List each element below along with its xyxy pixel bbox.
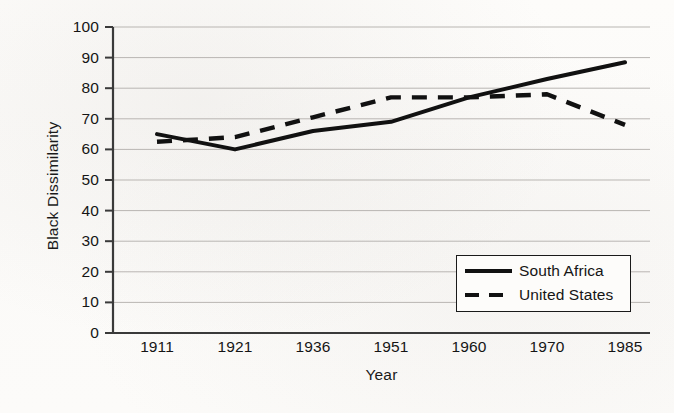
x-axis-tick-label: 1921	[200, 338, 270, 356]
y-axis-tick-label: 70	[55, 110, 99, 128]
legend-label-south-africa: South Africa	[519, 262, 604, 280]
chart-figure: Black Dissimilarity Year 100908070605040…	[0, 0, 674, 413]
y-axis-tick-label: 40	[55, 202, 99, 220]
y-axis-tick-label: 0	[55, 324, 99, 342]
x-axis-tick-label: 1960	[434, 338, 504, 356]
y-axis-tick-label: 60	[55, 140, 99, 158]
y-axis-tick-label: 80	[55, 79, 99, 97]
y-axis-tick-label: 100	[55, 18, 99, 36]
x-axis-title: Year	[113, 366, 650, 384]
chart-legend: South Africa United States	[456, 255, 631, 312]
y-axis-tick-label: 50	[55, 171, 99, 189]
y-axis-tick-label: 30	[55, 232, 99, 250]
y-axis-tick-label: 10	[55, 293, 99, 311]
y-axis-tick-label: 90	[55, 49, 99, 67]
y-axis-tick-marks	[105, 27, 113, 333]
y-axis-tick-label: 20	[55, 263, 99, 281]
x-axis-tick-label: 1951	[356, 338, 426, 356]
x-axis-tick-label: 1985	[590, 338, 660, 356]
x-axis-tick-label: 1970	[512, 338, 582, 356]
line-series-south-africa	[157, 62, 625, 149]
legend-swatch-solid-line-icon	[465, 269, 512, 273]
line-series-united-states	[157, 94, 625, 141]
legend-label-united-states: United States	[519, 286, 613, 304]
legend-swatch-dashed-line-icon	[465, 293, 512, 297]
x-axis-tick-label: 1936	[278, 338, 348, 356]
legend-item-south-africa: South Africa	[465, 259, 604, 283]
x-axis-tick-label: 1911	[122, 338, 192, 356]
legend-item-united-states: United States	[465, 283, 613, 307]
